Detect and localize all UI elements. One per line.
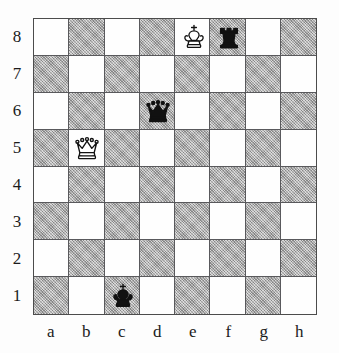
rank-label-1: 1 [6, 278, 28, 315]
square-h5[interactable] [281, 130, 316, 167]
square-h3[interactable] [281, 203, 316, 240]
square-a5[interactable] [34, 130, 69, 167]
file-label-f: f [211, 319, 247, 345]
square-f1[interactable] [210, 277, 245, 314]
square-c8[interactable] [105, 19, 140, 56]
square-b6[interactable] [69, 93, 104, 130]
square-d5[interactable] [140, 130, 175, 167]
square-f4[interactable] [210, 167, 245, 204]
square-b1[interactable] [69, 277, 104, 314]
black-rook-icon[interactable] [212, 19, 248, 56]
black-queen-icon[interactable] [141, 93, 177, 130]
square-e2[interactable] [175, 240, 210, 277]
square-b4[interactable] [69, 167, 104, 204]
file-label-a: a [33, 319, 69, 345]
square-f7[interactable] [210, 56, 245, 93]
square-c5[interactable] [105, 130, 140, 167]
square-g4[interactable] [246, 167, 281, 204]
square-e5[interactable] [175, 130, 210, 167]
square-c6[interactable] [105, 93, 140, 130]
square-b3[interactable] [69, 203, 104, 240]
square-h1[interactable] [281, 277, 316, 314]
rank-label-8: 8 [6, 18, 28, 55]
file-label-g: g [246, 319, 282, 345]
square-d7[interactable] [140, 56, 175, 93]
square-h2[interactable] [281, 240, 316, 277]
rank-label-2: 2 [6, 241, 28, 278]
square-h8[interactable] [281, 19, 316, 56]
square-e4[interactable] [175, 167, 210, 204]
square-a2[interactable] [34, 240, 69, 277]
rank-label-7: 7 [6, 55, 28, 92]
square-c3[interactable] [105, 203, 140, 240]
rank-label-5: 5 [6, 129, 28, 166]
square-g5[interactable] [246, 130, 281, 167]
square-b7[interactable] [69, 56, 104, 93]
file-label-c: c [104, 319, 140, 345]
square-g1[interactable] [246, 277, 281, 314]
black-king-icon[interactable] [105, 279, 141, 316]
square-g8[interactable] [246, 19, 281, 56]
square-a7[interactable] [34, 56, 69, 93]
square-f6[interactable] [210, 93, 245, 130]
square-f5[interactable] [210, 130, 245, 167]
square-e3[interactable] [175, 203, 210, 240]
square-b8[interactable] [69, 19, 104, 56]
square-g2[interactable] [246, 240, 281, 277]
file-label-e: e [175, 319, 211, 345]
square-g6[interactable] [246, 93, 281, 130]
square-a1[interactable] [34, 277, 69, 314]
chess-diagram: 87654321 abcdefgh [0, 0, 339, 353]
file-label-b: b [69, 319, 105, 345]
square-a8[interactable] [34, 19, 69, 56]
square-h4[interactable] [281, 167, 316, 204]
square-b2[interactable] [69, 240, 104, 277]
square-d1[interactable] [140, 277, 175, 314]
square-c7[interactable] [105, 56, 140, 93]
square-f3[interactable] [210, 203, 245, 240]
white-queen-icon[interactable] [70, 130, 106, 167]
square-h6[interactable] [281, 93, 316, 130]
white-king-icon[interactable] [176, 19, 212, 56]
rank-label-6: 6 [6, 92, 28, 129]
rank-label-3: 3 [6, 204, 28, 241]
square-f2[interactable] [210, 240, 245, 277]
square-c4[interactable] [105, 167, 140, 204]
square-d2[interactable] [140, 240, 175, 277]
square-g3[interactable] [246, 203, 281, 240]
square-g7[interactable] [246, 56, 281, 93]
file-label-d: d [140, 319, 176, 345]
chess-board[interactable] [33, 18, 317, 315]
square-d8[interactable] [140, 19, 175, 56]
square-e1[interactable] [175, 277, 210, 314]
square-e7[interactable] [175, 56, 210, 93]
square-a6[interactable] [34, 93, 69, 130]
square-a4[interactable] [34, 167, 69, 204]
rank-label-4: 4 [6, 167, 28, 204]
square-d4[interactable] [140, 167, 175, 204]
square-h7[interactable] [281, 56, 316, 93]
file-label-h: h [282, 319, 318, 345]
square-e6[interactable] [175, 93, 210, 130]
square-d3[interactable] [140, 203, 175, 240]
square-a3[interactable] [34, 203, 69, 240]
square-c2[interactable] [105, 240, 140, 277]
